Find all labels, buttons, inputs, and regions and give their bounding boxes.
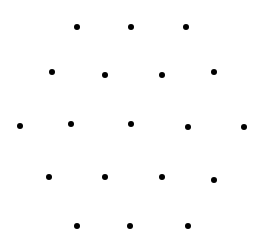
dot: [17, 123, 23, 129]
dot: [127, 223, 133, 229]
dot: [159, 72, 165, 78]
dot-row-4: [46, 174, 217, 183]
dot-row-5: [74, 223, 191, 229]
dot-row-1: [74, 24, 189, 30]
dot: [46, 174, 52, 180]
dot: [128, 24, 134, 30]
dot: [211, 69, 217, 75]
dot: [183, 24, 189, 30]
dot: [102, 72, 108, 78]
dot: [68, 121, 74, 127]
dot: [74, 24, 80, 30]
dot: [159, 174, 165, 180]
dot: [185, 223, 191, 229]
dot: [211, 177, 217, 183]
dot: [74, 223, 80, 229]
dot: [49, 69, 55, 75]
dot-row-3: [17, 121, 247, 130]
dot: [102, 174, 108, 180]
dot: [241, 124, 247, 130]
dot: [128, 121, 134, 127]
dot: [185, 124, 191, 130]
dot-row-2: [49, 69, 217, 78]
dot-pattern-diagram: [0, 0, 255, 241]
